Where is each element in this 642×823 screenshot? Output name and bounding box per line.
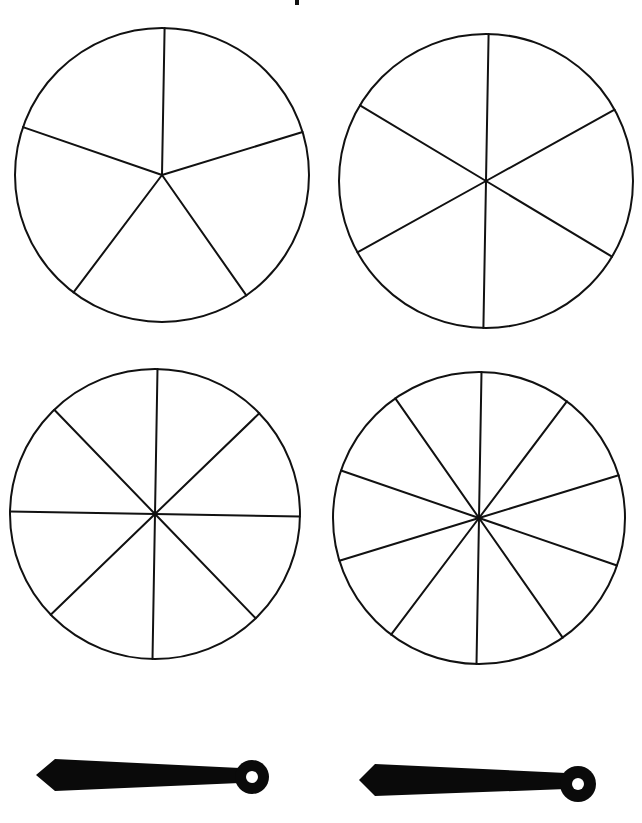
pivot-hole: [246, 771, 258, 783]
spinner-6-sections: [339, 34, 633, 328]
top-edge-mark: [295, 0, 299, 5]
pointer-left[interactable]: [36, 759, 269, 794]
spinner-8-sections: [10, 369, 300, 659]
spinner-10-sections: [333, 372, 625, 664]
arrow-pointer-icon: [359, 764, 566, 796]
spinner-pointers: [36, 759, 596, 802]
pivot-hole: [572, 778, 584, 790]
spinner-template-sheet: [0, 0, 642, 823]
spinner-wheels: [10, 28, 633, 664]
spinner-5-sections: [15, 28, 309, 322]
pointer-right[interactable]: [359, 764, 596, 802]
arrow-pointer-icon: [36, 759, 240, 791]
